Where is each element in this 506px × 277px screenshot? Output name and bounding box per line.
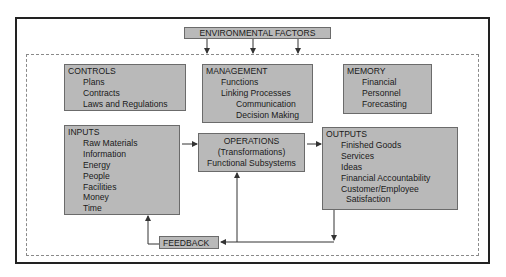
inputs-item: Energy	[68, 160, 176, 171]
inputs-item: Time	[68, 203, 176, 214]
environmental-factors-box: ENVIRONMENTAL FACTORS	[184, 27, 331, 39]
operations-title: OPERATIONS	[202, 136, 301, 147]
controls-item: Contracts	[68, 88, 182, 99]
operations-subtitle: (Transformations)	[202, 147, 301, 158]
controls-title: CONTROLS	[68, 66, 182, 77]
inputs-item: People	[68, 171, 176, 182]
outputs-box: OUTPUTS Finished Goods Services Ideas Fi…	[322, 127, 458, 210]
outputs-item-continuation: Satisfaction	[326, 194, 454, 205]
controls-item: Laws and Regulations	[68, 99, 182, 110]
management-subitem: Communication	[206, 99, 309, 110]
feedback-label: FEEDBACK	[163, 238, 209, 248]
outputs-item: Finished Goods	[326, 140, 454, 151]
memory-item: Personnel	[347, 88, 428, 99]
inputs-item: Money	[68, 192, 176, 203]
environment-arrows	[207, 39, 298, 53]
outputs-item: Ideas	[326, 162, 454, 173]
memory-title: MEMORY	[347, 66, 428, 77]
management-box: MANAGEMENT Functions Linking Processes C…	[202, 64, 313, 123]
management-subitem: Decision Making	[206, 110, 309, 121]
inputs-item: Information	[68, 149, 176, 160]
operations-box: OPERATIONS (Transformations) Functional …	[198, 133, 305, 172]
memory-item: Forecasting	[347, 99, 428, 110]
outputs-item: Financial Accountability	[326, 173, 454, 184]
inputs-item: Raw Materials	[68, 138, 176, 149]
outputs-title: OUTPUTS	[326, 129, 454, 140]
outputs-item: Customer/Employee	[326, 184, 454, 195]
inputs-item: Facilities	[68, 182, 176, 193]
management-item: Linking Processes	[206, 88, 309, 99]
operations-detail: Functional Subsystems	[202, 158, 301, 169]
management-item: Functions	[206, 77, 309, 88]
inputs-title: INPUTS	[68, 127, 176, 138]
controls-box: CONTROLS Plans Contracts Laws and Regula…	[64, 64, 186, 111]
environmental-factors-label: ENVIRONMENTAL FACTORS	[200, 28, 316, 38]
feedback-box: FEEDBACK	[159, 236, 219, 249]
memory-box: MEMORY Financial Personnel Forecasting	[343, 64, 432, 114]
management-title: MANAGEMENT	[206, 66, 309, 77]
controls-item: Plans	[68, 77, 182, 88]
memory-item: Financial	[347, 77, 428, 88]
inputs-box: INPUTS Raw Materials Information Energy …	[64, 125, 180, 215]
outputs-item: Services	[326, 151, 454, 162]
